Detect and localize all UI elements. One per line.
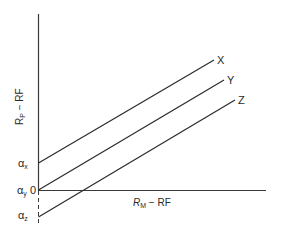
alpha-x-label: αx (18, 157, 28, 170)
line-y (39, 80, 225, 190)
line-y-label: Y (227, 74, 235, 86)
line-x (39, 60, 215, 163)
alpha-z-label: αz (18, 209, 28, 222)
alpha-y-label: αy 0 (17, 184, 36, 198)
x-axis-label: RM − RF (133, 197, 171, 209)
y-axis-label: RP − RF (14, 88, 26, 125)
characteristic-lines-diagram: X Y Z RP − RF RM − RF αx αy 0 αz (0, 0, 281, 236)
line-x-label: X (217, 54, 225, 66)
line-z-label: Z (238, 94, 245, 106)
